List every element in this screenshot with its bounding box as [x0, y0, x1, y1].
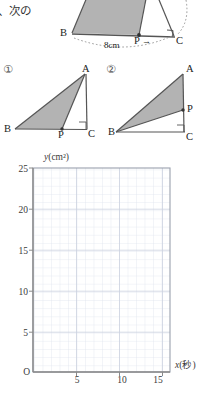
x-tick-10: 10	[114, 375, 130, 385]
x-tick-5: 5	[70, 375, 84, 385]
case-2-segment-ac	[183, 74, 184, 132]
y-tick-15: 15	[12, 246, 28, 256]
origin-label: O	[20, 367, 30, 377]
y-axis-label: y(cm²)	[44, 152, 69, 162]
x-axis-label: x(秒)	[175, 357, 196, 371]
case-2-label-p: P	[187, 104, 193, 115]
y-tick-5: 5	[12, 328, 28, 338]
y-axis-unit: (cm²)	[48, 152, 69, 162]
y-tick-20: 20	[12, 205, 28, 215]
coordinate-grid-graph: y(cm²) x(秒) O 25 20 15 10 5 5 10 15	[0, 145, 207, 397]
case-2-label-c: C	[186, 132, 193, 143]
x-axis-unit: (秒)	[179, 360, 195, 370]
case-2-label-a: A	[186, 64, 194, 75]
case-2-point-p-marker	[181, 108, 184, 111]
case-2-right-angle-mark	[177, 125, 184, 132]
case-2-label-b: B	[108, 127, 115, 138]
x-tick-15: 15	[150, 375, 166, 385]
y-tick-25: 25	[12, 164, 28, 174]
y-tick-10: 10	[12, 287, 28, 297]
plot-minor-grid	[33, 168, 170, 372]
